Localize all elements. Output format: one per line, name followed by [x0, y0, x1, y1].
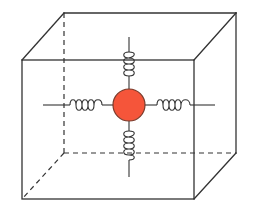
- cube-front-face: [22, 60, 194, 199]
- mass-spring-cube-diagram: [0, 0, 254, 212]
- spring-left: [43, 100, 113, 111]
- cube-top-right-diagonal: [194, 13, 236, 60]
- mass-ball: [113, 89, 145, 121]
- spring-top: [124, 37, 135, 89]
- spring-bottom: [124, 121, 135, 177]
- cube-top-left-diagonal: [22, 13, 64, 60]
- hidden-edge-bottom-left-diagonal: [22, 153, 64, 199]
- cube-bottom-right-diagonal: [194, 153, 236, 199]
- spring-right: [145, 100, 215, 111]
